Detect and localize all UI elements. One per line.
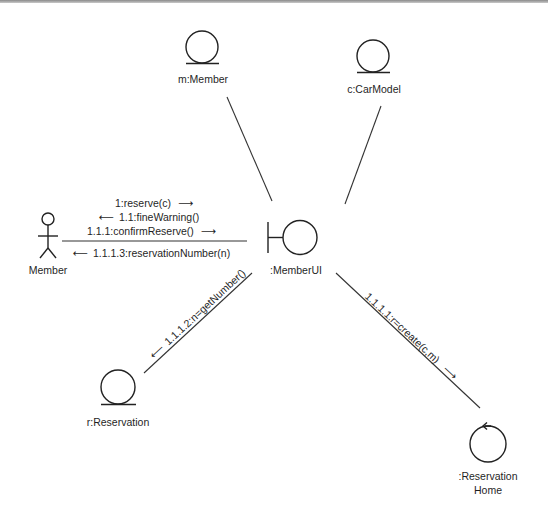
entity-icon xyxy=(186,31,219,64)
object-label-memberui: :MemberUI xyxy=(270,264,322,276)
message-reservationnumber: ⟵ 1.1.1.3:reservationNumber(n) xyxy=(73,247,230,259)
message-text: 1.1.1.3:reservationNumber(n) xyxy=(93,247,230,259)
object-label-m-member: m:Member xyxy=(178,73,228,85)
actor-label-member: Member xyxy=(29,264,68,276)
control-icon xyxy=(470,423,506,463)
message-text: 1:reserve(c) xyxy=(115,197,171,209)
arrow-right-icon: ⟶ xyxy=(201,225,216,237)
arrow-left-icon: ⟵ xyxy=(99,211,114,223)
message-text: 1.1.1:confirmReserve() xyxy=(87,225,194,237)
message-confirmreserve: 1.1.1:confirmReserve() ⟶ xyxy=(87,225,216,237)
object-label-c-carmodel: c:CarModel xyxy=(347,83,401,95)
boundary-icon xyxy=(268,221,317,255)
link-memberui-reservation xyxy=(144,273,252,373)
object-label-reservation-home-line2: Home xyxy=(474,484,502,496)
link-mmember-memberui xyxy=(227,97,272,201)
object-label-r-reservation: r:Reservation xyxy=(87,416,149,428)
entity-icon xyxy=(357,40,390,73)
object-label-reservation-home-line1: :Reservation xyxy=(459,470,518,482)
message-reserve: 1:reserve(c) ⟶ xyxy=(115,197,193,209)
arrow-left-icon: ⟵ xyxy=(73,247,88,259)
actor-icon xyxy=(38,213,58,258)
message-text: 1.1:fineWarning() xyxy=(119,211,199,223)
arrow-right-icon: ⟶ xyxy=(178,197,193,209)
link-carmodel-memberui xyxy=(345,106,381,204)
entity-icon xyxy=(101,370,136,405)
message-finewarning: ⟵ 1.1:fineWarning() xyxy=(99,211,199,223)
